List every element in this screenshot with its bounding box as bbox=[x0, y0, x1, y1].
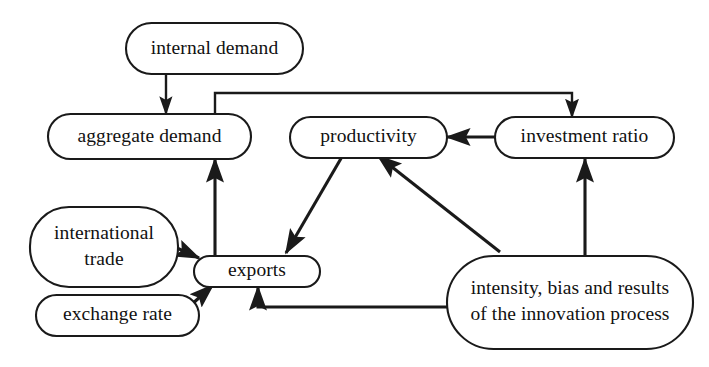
node-aggregate-demand-label: aggregate demand bbox=[78, 125, 222, 146]
node-international-trade-label-line1: international bbox=[54, 222, 154, 243]
node-investment-ratio[interactable]: investment ratio bbox=[495, 117, 674, 158]
node-exchange-rate-label: exchange rate bbox=[63, 303, 172, 324]
edge-innovation-to-exports bbox=[258, 287, 447, 307]
node-investment-ratio-label: investment ratio bbox=[521, 125, 649, 146]
node-innovation-label-line1: intensity, bias and results bbox=[471, 277, 670, 298]
node-exchange-rate[interactable]: exchange rate bbox=[36, 295, 199, 336]
flow-diagram-svg: internal demand aggregate demand product… bbox=[0, 0, 709, 367]
node-international-trade-label-line2: trade bbox=[84, 248, 123, 269]
node-international-trade-shape bbox=[30, 207, 178, 287]
node-productivity-label: productivity bbox=[320, 125, 417, 146]
edge-productivity-to-exports bbox=[286, 155, 343, 253]
flow-diagram-canvas: internal demand aggregate demand product… bbox=[0, 0, 709, 367]
node-international-trade[interactable]: international trade bbox=[30, 207, 178, 287]
node-productivity[interactable]: productivity bbox=[290, 117, 447, 158]
node-aggregate-demand[interactable]: aggregate demand bbox=[48, 114, 251, 159]
node-internal-demand[interactable]: internal demand bbox=[126, 23, 303, 74]
node-innovation-label-line2: of the innovation process bbox=[470, 303, 669, 324]
node-exports[interactable]: exports bbox=[194, 256, 320, 287]
node-innovation[interactable]: intensity, bias and results of the innov… bbox=[447, 256, 693, 349]
edge-innovation-to-productivity bbox=[378, 156, 500, 252]
node-internal-demand-label: internal demand bbox=[151, 37, 279, 58]
node-exports-label: exports bbox=[228, 259, 286, 280]
